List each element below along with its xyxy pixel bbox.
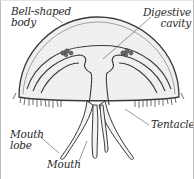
label-mouth-lobe: Mouth lobe bbox=[10, 129, 44, 151]
jellyfish-diagram: Bell-shaped body Digestive cavity Tentac… bbox=[0, 0, 194, 179]
label-digestive-cavity: Digestive cavity bbox=[141, 7, 191, 29]
label-tentacle: Tentacle bbox=[151, 119, 194, 130]
label-mouth: Mouth bbox=[47, 159, 81, 170]
label-bell-shaped-body: Bell-shaped body bbox=[11, 6, 71, 28]
oral-arms bbox=[60, 101, 133, 159]
